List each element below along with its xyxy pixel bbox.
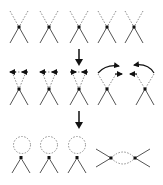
contraction-vertex-4 xyxy=(98,74,116,105)
vertex-4 xyxy=(98,11,116,43)
vertex-5 xyxy=(125,11,143,43)
tadpole-diagram-3 xyxy=(68,137,86,174)
tadpole-diagram-2 xyxy=(40,137,58,174)
row-1-vertices xyxy=(10,11,143,43)
contraction-vertex-2 xyxy=(40,72,58,105)
bubble-diagram xyxy=(96,149,150,167)
tadpole-diagram-1 xyxy=(12,137,31,174)
vertex-2 xyxy=(40,11,58,43)
row-2-contractions xyxy=(10,65,154,105)
contraction-vertex-5 xyxy=(136,74,154,105)
cross-contraction-arrows xyxy=(98,65,154,74)
step-arrow-1-icon xyxy=(75,49,83,66)
diagram-canvas xyxy=(0,0,163,185)
contraction-vertex-3 xyxy=(70,72,88,105)
vertex-3 xyxy=(70,11,88,43)
row-3-results xyxy=(12,137,150,174)
contraction-vertex-1 xyxy=(10,72,28,105)
vertex-1 xyxy=(10,11,28,43)
step-arrow-2-icon xyxy=(75,111,83,129)
